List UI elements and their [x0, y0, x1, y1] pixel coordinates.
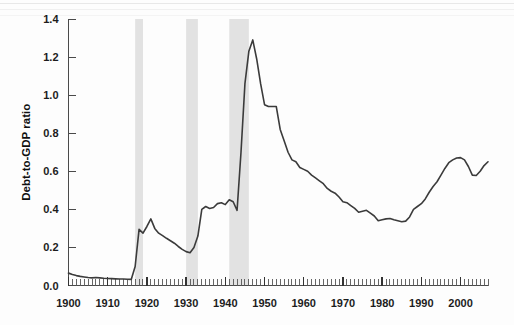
x-tick-label: 1970 — [331, 297, 355, 309]
y-axis-title-text: Debt-to-GDP ratio — [20, 104, 32, 201]
x-tick-label: 1960 — [291, 297, 315, 309]
y-tick-label: 1.0 — [43, 89, 58, 101]
x-tick-label: 1900 — [56, 297, 80, 309]
y-tick-label: 1.4 — [43, 13, 59, 25]
x-tick-label: 1920 — [135, 297, 159, 309]
shaded-band — [135, 19, 143, 286]
y-axis-tick-labels: 0.00.20.40.60.81.01.21.4 — [43, 13, 59, 292]
y-tick-label: 0.6 — [43, 165, 58, 177]
data-series — [69, 40, 489, 279]
recession-shaded-bands — [135, 19, 249, 286]
y-tick-label: 0.0 — [43, 280, 58, 292]
x-tick-label: 1930 — [174, 297, 198, 309]
x-tick-label: 1990 — [409, 297, 433, 309]
x-tick-label: 1980 — [370, 297, 394, 309]
shaded-band — [186, 19, 198, 286]
y-tick-label: 0.4 — [43, 203, 59, 215]
debt-to-gdp-line-chart: 1900191019201930194019501960197019801990… — [0, 0, 514, 325]
shaded-band — [229, 19, 249, 286]
x-tick-label: 2000 — [448, 297, 472, 309]
y-tick-label: 1.2 — [43, 51, 58, 63]
chart-axes — [69, 19, 489, 286]
series-line-debt-to-gdp-ratio — [69, 40, 489, 279]
y-tick-label: 0.8 — [43, 127, 58, 139]
y-axis-ticks — [69, 19, 76, 286]
figure-container: 1900191019201930194019501960197019801990… — [0, 0, 514, 325]
y-axis-title: Debt-to-GDP ratio — [20, 104, 32, 201]
y-tick-label: 0.2 — [43, 241, 58, 253]
chart-plot-area: 1900191019201930194019501960197019801990… — [0, 0, 514, 325]
x-tick-label: 1940 — [213, 297, 237, 309]
x-tick-label: 1910 — [95, 297, 119, 309]
x-tick-label: 1950 — [252, 297, 276, 309]
x-axis-tick-labels: 1900191019201930194019501960197019801990… — [56, 297, 473, 309]
